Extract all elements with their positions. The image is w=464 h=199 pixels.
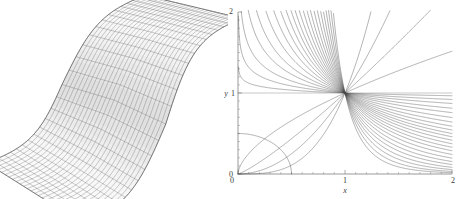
y-tick-label-0: 0 [229,170,233,179]
curve-path [238,134,292,175]
curves-plot-panel: 0 1 2 0 1 2 x y [224,0,464,199]
curve-path [299,11,452,141]
surface-plot-panel [0,0,228,199]
curves-plot-svg: 0 1 2 0 1 2 x y [224,0,464,199]
y-axis-label: y [224,89,228,98]
figure-container: 0 1 2 0 1 2 x y [0,0,464,199]
x-axis-label: x [342,186,347,195]
curve-path [326,11,452,168]
surface-plot-svg [0,0,228,199]
curve-path [314,11,452,154]
surface-mesh [0,0,228,199]
x-tick-label-1: 1 [343,176,347,185]
curve-path [238,11,390,174]
y-tick-label-2: 2 [229,7,233,16]
x-tick-label-2: 2 [451,176,455,185]
y-tick-label-1: 1 [231,89,235,98]
curve-path [307,11,452,147]
curve-path [241,12,452,104]
curve-family [238,10,452,174]
